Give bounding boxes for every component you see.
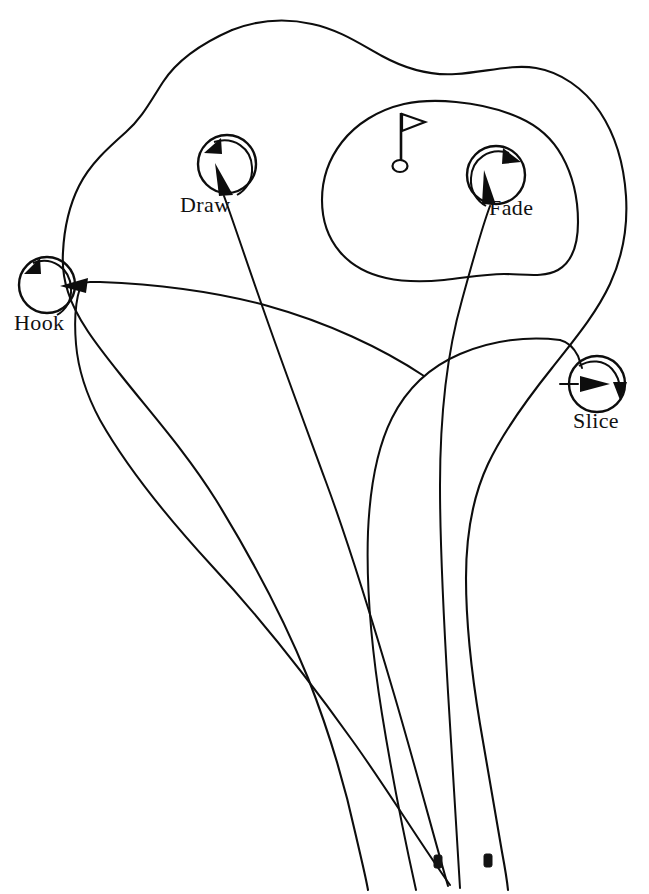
draw-spin-arrowhead — [204, 138, 222, 154]
golf-hole-illustration: Hook Draw Fade Slice — [0, 0, 649, 894]
trajectory-fade — [440, 206, 490, 888]
tee-marker-right — [484, 854, 492, 867]
trajectory-slice — [368, 339, 560, 890]
golf-shot-shape-diagram: Hook Draw Fade Slice — [0, 0, 649, 894]
fairway-outline — [63, 30, 368, 890]
shot-label-slice: Slice — [573, 408, 619, 433]
trajectory-hook — [75, 288, 450, 885]
trajectory-hook-tail — [100, 282, 424, 376]
hole-cup — [393, 160, 408, 172]
fairway-outline-right — [232, 21, 626, 890]
shot-label-hook: Hook — [14, 310, 65, 335]
slice-arrowhead — [580, 376, 610, 392]
green-outline — [322, 101, 578, 281]
shot-label-fade: Fade — [489, 195, 533, 220]
trajectory-draw — [224, 196, 448, 886]
shot-label-draw: Draw — [180, 192, 230, 217]
tee-marker-left — [434, 855, 442, 868]
flag-banner — [402, 114, 425, 131]
